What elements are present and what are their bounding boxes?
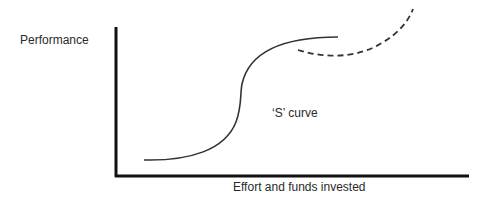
x-axis-label: Effort and funds invested [233, 180, 366, 194]
y-axis-label: Performance [20, 33, 89, 47]
next-s-curve-dashed [298, 9, 413, 56]
s-curve [144, 37, 338, 160]
s-curve-label: ‘S’ curve [272, 106, 318, 120]
s-curve-diagram [0, 0, 484, 198]
